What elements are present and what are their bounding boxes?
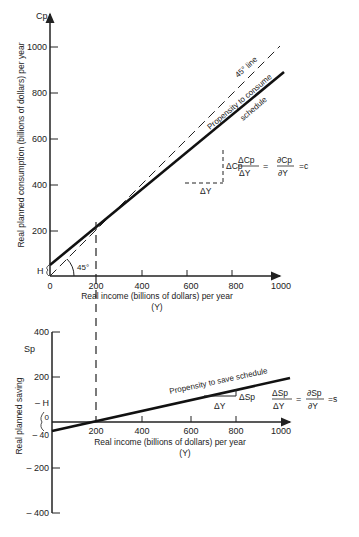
h-brace [47, 265, 49, 276]
mpc-formula: ΔCp ΔY = ∂Cp ∂Y =c [238, 155, 309, 178]
svg-text:200: 200 [32, 226, 47, 236]
svg-text:400: 400 [134, 426, 149, 436]
svg-text:=c: =c [299, 161, 309, 171]
x-axis-subtitle: (Y) [179, 448, 191, 458]
svg-text:0: 0 [47, 281, 52, 291]
delta-y-label: ΔY [200, 186, 212, 196]
svg-text:1000: 1000 [271, 281, 291, 291]
svg-text:ΔCp: ΔCp [238, 155, 255, 165]
angle-arc [67, 259, 74, 276]
x-ticks: 200 400 600 800 1000 [88, 416, 291, 436]
svg-text:ΔSp: ΔSp [272, 388, 288, 398]
svg-text:1000: 1000 [27, 42, 47, 52]
x-axis-title: Real income (billions of dollars) per ye… [81, 291, 233, 301]
h-brace [41, 412, 44, 431]
svg-text:=: = [263, 161, 268, 171]
saving-chart: 400 200 0 – 40 – 200 – 400 Sp 200 400 60… [14, 327, 337, 518]
cp-axis-symbol: Cp [36, 11, 48, 21]
x-axis-subtitle: (Y) [151, 302, 163, 312]
svg-text:ΔY: ΔY [273, 401, 285, 411]
svg-text:400: 400 [134, 281, 149, 291]
svg-text:400: 400 [34, 327, 49, 337]
svg-text:600: 600 [183, 281, 198, 291]
y-axis-title: Real planned saving [14, 377, 24, 454]
svg-text:800: 800 [228, 426, 243, 436]
minus-h-label: – H [35, 398, 49, 408]
mps-formula: ΔSp ΔY = ∂Sp ∂Y =s [272, 388, 337, 411]
h-intercept-label: H [37, 266, 44, 276]
svg-text:=: = [296, 394, 301, 404]
svg-text:∂Y: ∂Y [308, 401, 318, 411]
y-ticks: 1000 800 600 400 200 [27, 42, 58, 236]
svg-text:– 400: – 400 [26, 508, 49, 518]
svg-text:0: 0 [45, 413, 50, 422]
svg-text:200: 200 [34, 372, 49, 382]
svg-text:600: 600 [183, 426, 198, 436]
svg-text:600: 600 [32, 134, 47, 144]
chart-canvas: Cp 1000 800 600 400 200 0 200 400 600 80… [0, 0, 359, 537]
delta-y-label: ΔY [214, 401, 226, 411]
sp-axis-symbol: Sp [24, 344, 35, 354]
45-line-label: 45° line [233, 55, 259, 80]
svg-text:∂Cp: ∂Cp [277, 155, 292, 165]
delta-s-label: ΔSp [239, 392, 255, 402]
angle-label: 45° [77, 263, 89, 272]
svg-text:400: 400 [32, 180, 47, 190]
x-ticks: 0 200 400 600 800 1000 [47, 270, 291, 291]
x-axis-title: Real income (billions of dollars) per ye… [94, 437, 246, 447]
svg-text:– 200: – 200 [26, 463, 49, 473]
svg-text:1000: 1000 [271, 426, 291, 436]
consumption-chart: Cp 1000 800 600 400 200 0 200 400 600 80… [16, 11, 309, 312]
svg-text:∂Sp: ∂Sp [307, 388, 322, 398]
svg-text:∂Y: ∂Y [278, 168, 288, 178]
svg-text:– 40: – 40 [32, 430, 49, 440]
svg-text:ΔY: ΔY [239, 168, 251, 178]
svg-text:800: 800 [228, 281, 243, 291]
svg-text:200: 200 [88, 426, 103, 436]
svg-text:=s: =s [328, 394, 337, 404]
svg-text:800: 800 [32, 88, 47, 98]
y-axis-title: Real planned consumption (billions of do… [16, 42, 26, 247]
